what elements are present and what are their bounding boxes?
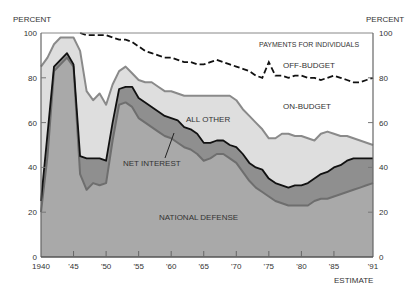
x-tick-label: '70 [231,262,242,271]
x-tick-label: '50 [101,262,112,271]
x-tick-label: '75 [264,262,275,271]
x-tick-label: '85 [329,262,340,271]
y-tick-label-left: 80 [28,74,37,83]
y-tick-label-right: 80 [379,74,388,83]
budget-composition-chart: 002020404060608080100100 1940'45'50'55'6… [0,0,416,296]
x-tick-label: '55 [133,262,144,271]
y-tick-label-right: 40 [379,163,388,172]
payments-for-individuals-label: PAYMENTS FOR INDIVIDUALS [259,41,359,48]
left-axis-title: PERCENT [13,15,51,24]
all-other-label: ALL OTHER [186,115,230,124]
y-tick-label-left: 40 [28,163,37,172]
y-tick-label-right: 20 [379,208,388,217]
y-tick-label-left: 20 [28,208,37,217]
chart-svg: 002020404060608080100100 1940'45'50'55'6… [0,0,416,296]
x-tick-label: 1940 [32,262,50,271]
x-tick-label: '80 [296,262,307,271]
net-interest-label: NET INTEREST [123,159,181,168]
x-tick-label: '91 [368,262,379,271]
x-tick-label: '45 [68,262,79,271]
y-tick-label-right: 0 [379,253,384,262]
area-layers [41,38,373,258]
y-tick-label-right: 100 [379,29,393,38]
y-tick-label-left: 100 [24,29,38,38]
on-budget-label: ON-BUDGET [283,102,331,111]
x-tick-label: '65 [199,262,210,271]
y-tick-label-right: 60 [379,119,388,128]
estimate-label: ESTIMATE [334,276,373,285]
y-tick-label-left: 60 [28,119,37,128]
x-tick-label: '60 [166,262,177,271]
off-budget-label: OFF-BUDGET [283,61,335,70]
right-axis-title: PERCENT [366,15,404,24]
y-tick-label-left: 0 [33,253,38,262]
national-defense-label: NATIONAL DEFENSE [159,213,238,222]
